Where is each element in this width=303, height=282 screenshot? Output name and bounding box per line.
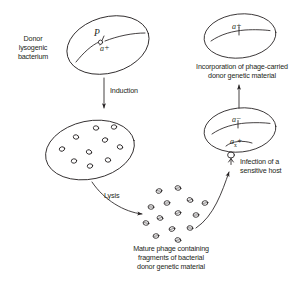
adsorbed-phage [228,152,235,165]
transduction-diagram: Donor lysogenic bacterium Induction Lysi… [0,0,303,282]
result-marker-sign: + [236,20,241,30]
infection-arrow [196,172,229,228]
free-phage-particles [143,185,208,243]
result-marker-label: a+ [232,20,241,31]
recipient-marker-sign: − [236,113,241,123]
lysis-label: Lysis [104,191,119,200]
prophage-p-label: P [94,28,100,38]
recipient-marker-label: a− [232,113,241,124]
mature-phage-caption: Mature phage containing fragments of bac… [110,244,232,272]
donor-chromosome [76,33,145,62]
transduced-marker-label: ax+ [230,135,242,148]
transduced-chromosome [211,30,270,41]
donor-marker-sign: + [104,42,109,52]
transduced-bacterium-outline [202,10,278,61]
donor-marker-label: a+ [100,42,109,53]
induction-label: Induction [110,86,138,95]
intracellular-phage-particles [59,125,123,169]
recipient-chromosome [212,123,270,134]
transduced-marker-sign: + [237,135,242,145]
donor-bacterium-label: Donor lysogenic bacterium [4,34,62,62]
infection-caption: Infection of a sensitive host [240,157,281,175]
incorporation-caption: Incorporation of phage-carried donor gen… [183,62,301,80]
